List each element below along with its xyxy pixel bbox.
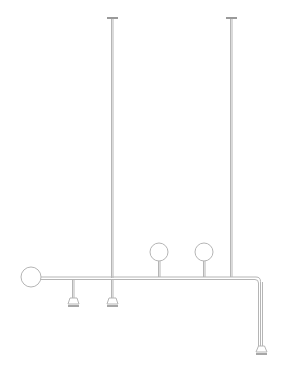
shade-1 (68, 280, 79, 306)
fixture-svg (0, 0, 281, 375)
fixture-drawing: Pendant light fixture line drawing (0, 0, 281, 375)
shade-3 (256, 346, 267, 354)
shade-2 (107, 280, 118, 306)
globe-left (21, 267, 41, 287)
canopy-right (226, 17, 237, 277)
canopy-left (107, 17, 118, 278)
globe-mid (150, 243, 168, 277)
globe-right (195, 243, 213, 277)
